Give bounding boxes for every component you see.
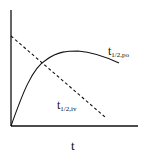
po-label-sub: 1/2,po <box>111 51 129 59</box>
po-label: t1/2,po <box>108 44 129 59</box>
iv-label: t1/2,iv <box>57 98 76 113</box>
pk-chart: t1/2,po t1/2,iv t <box>0 0 144 155</box>
po-curve <box>11 51 119 126</box>
iv-label-sub: 1/2,iv <box>60 105 76 113</box>
chart-canvas <box>0 0 144 155</box>
x-axis-label: t <box>71 138 75 154</box>
